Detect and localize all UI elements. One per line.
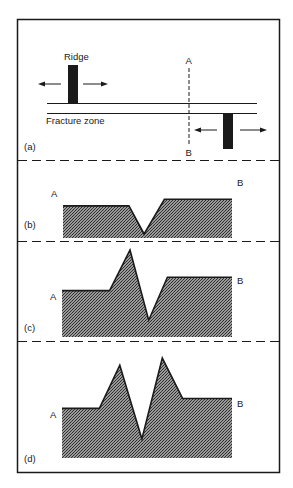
- panel-b: A B (b): [24, 177, 243, 238]
- spreading-arrow-right-west: [194, 128, 217, 133]
- profile-b-end-label: B: [237, 177, 243, 188]
- ridge-label: Ridge: [64, 51, 89, 62]
- spreading-arrow-left-east: [83, 82, 108, 87]
- panel-label-c: (c): [24, 322, 35, 333]
- profile-c-start-label: A: [50, 291, 57, 302]
- profile-c-end-label: B: [237, 275, 243, 286]
- panel-c: A B (c): [24, 250, 243, 337]
- panel-a: Ridge Fracture zone A B (a): [24, 51, 267, 158]
- profile-d-end-label: B: [237, 398, 243, 409]
- ridge-segment-right: [223, 113, 233, 149]
- profile-start-label: A: [186, 55, 193, 66]
- profile-c-fill: [62, 250, 232, 337]
- ridge-segment-left: [68, 65, 78, 103]
- panel-label-d: (d): [24, 453, 36, 464]
- spreading-arrow-left-west: [38, 82, 61, 87]
- panel-label-a: (a): [24, 141, 36, 152]
- panel-label-b: (b): [24, 219, 36, 230]
- profile-d-start-label: A: [50, 409, 57, 420]
- panel-d: A B (d): [24, 358, 243, 464]
- profile-end-label: B: [186, 147, 192, 158]
- spreading-arrow-right-east: [240, 128, 267, 133]
- fracture-zone-label: Fracture zone: [46, 115, 105, 126]
- fracture-zone-figure: Ridge Fracture zone A B (a): [0, 0, 293, 488]
- profile-b-start-label: A: [51, 188, 58, 199]
